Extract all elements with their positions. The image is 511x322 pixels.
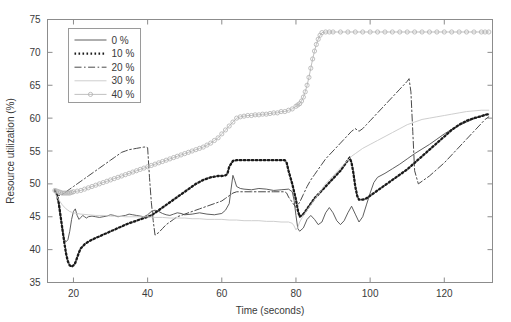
legend-label-20: 20 % — [112, 62, 135, 73]
chart-figure: 354045505560657075 20406080100120 0 %10 … — [0, 0, 511, 322]
y-tick-label: 70 — [29, 47, 41, 58]
y-tick-label: 75 — [29, 14, 41, 25]
legend-label-0: 0 % — [112, 35, 129, 46]
y-axis-title: Resource utilization (%) — [5, 98, 16, 204]
x-tick-label: 100 — [362, 288, 379, 299]
y-tick-label: 40 — [29, 244, 41, 255]
x-tick-label: 60 — [216, 288, 228, 299]
legend-label-10: 10 % — [112, 48, 135, 59]
x-tick-label: 120 — [436, 288, 453, 299]
x-tick-label: 80 — [290, 288, 302, 299]
legend-label-30: 30 % — [112, 75, 135, 86]
chart-legend: 0 %10 %20 %30 %40 % — [69, 29, 141, 103]
y-tick-label: 55 — [29, 146, 41, 157]
resource-utilization-line-chart: 354045505560657075 20406080100120 0 %10 … — [0, 0, 511, 322]
x-tick-label: 40 — [142, 288, 154, 299]
y-tick-label: 60 — [29, 113, 41, 124]
y-tick-label: 65 — [29, 80, 41, 91]
y-tick-label: 50 — [29, 178, 41, 189]
y-tick-label: 35 — [29, 277, 41, 288]
y-tick-label: 45 — [29, 211, 41, 222]
x-tick-label: 20 — [68, 288, 80, 299]
x-axis-title: Time (seconds) — [236, 305, 305, 316]
series-line-30 — [55, 110, 489, 230]
legend-label-40: 40 % — [112, 89, 135, 100]
